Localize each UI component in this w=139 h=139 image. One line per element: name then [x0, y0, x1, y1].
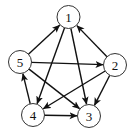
directed-graph: 12345 — [0, 0, 139, 139]
node-label: 5 — [17, 55, 24, 70]
edge-2-to-3 — [94, 75, 109, 105]
node-2: 2 — [104, 54, 127, 77]
node-5: 5 — [9, 51, 32, 74]
node-label: 4 — [30, 108, 37, 123]
edges-layer — [23, 25, 110, 116]
node-label: 2 — [112, 58, 119, 73]
node-3: 3 — [78, 105, 101, 128]
nodes-layer: 12345 — [9, 6, 127, 128]
node-label: 3 — [86, 109, 93, 124]
node-4: 4 — [22, 104, 45, 127]
edge-1-to-4 — [37, 28, 64, 104]
edge-2-to-1 — [77, 26, 107, 57]
edge-5-to-2 — [31, 62, 103, 64]
node-label: 1 — [65, 10, 72, 25]
node-1: 1 — [57, 6, 80, 29]
edge-5-to-1 — [28, 25, 59, 54]
edge-1-to-3 — [71, 28, 87, 104]
edge-4-to-5 — [23, 74, 30, 104]
edge-4-to-3 — [44, 115, 77, 116]
